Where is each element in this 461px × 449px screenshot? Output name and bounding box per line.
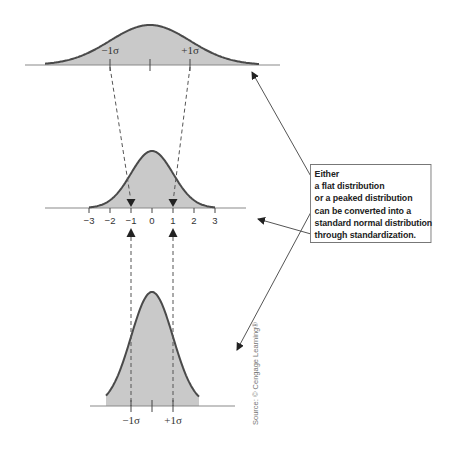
z-score-label: −2	[105, 215, 116, 226]
sigma-label: +1σ	[181, 44, 199, 56]
callout-line: or a peaked distribution	[315, 192, 431, 204]
dashed-line-minus-sigma-top	[110, 67, 131, 198]
arrow-to-flat-distribution	[252, 72, 313, 180]
z-score-label: 1	[170, 215, 175, 226]
callout-arrows	[237, 72, 313, 350]
arrow-to-peaked-distribution	[237, 212, 311, 350]
callout-line: Either	[315, 168, 431, 180]
callout-box: Either a flat distribution or a peaked d…	[310, 164, 431, 243]
up-arrow-icon	[127, 228, 136, 237]
source-credit: Source: © Cengage Learning®	[251, 322, 260, 425]
z-score-label: 2	[191, 215, 196, 226]
z-score-label: 0	[149, 215, 154, 226]
standard-normal-ticks	[89, 208, 215, 213]
standard-normal-tick-labels: −3−2−10123	[84, 215, 218, 226]
sigma-label: +1σ	[164, 414, 182, 426]
peaked-distribution: −1σ+1σ	[90, 292, 235, 426]
z-score-label: −1	[126, 215, 137, 226]
peaked-distribution-area	[106, 292, 199, 406]
sigma-label: −1σ	[101, 44, 119, 56]
flat-distribution: −1σ+1σ	[25, 25, 280, 71]
callout-line: a flat distribution	[315, 180, 431, 192]
callout-line: can be converted into a	[315, 205, 431, 217]
dashed-line-plus-sigma-top	[174, 67, 191, 198]
callout-line: through standardization.	[315, 229, 431, 241]
standard-normal-area	[89, 151, 215, 208]
z-score-label: −3	[84, 215, 95, 226]
callout-line: standard normal distribution	[315, 217, 431, 229]
up-arrow-icon	[169, 228, 178, 237]
sigma-label: −1σ	[122, 414, 140, 426]
standard-normal-distribution: −3−2−10123	[45, 151, 246, 226]
peaked-distribution-labels: −1σ+1σ	[122, 414, 182, 426]
z-score-label: 3	[212, 215, 217, 226]
